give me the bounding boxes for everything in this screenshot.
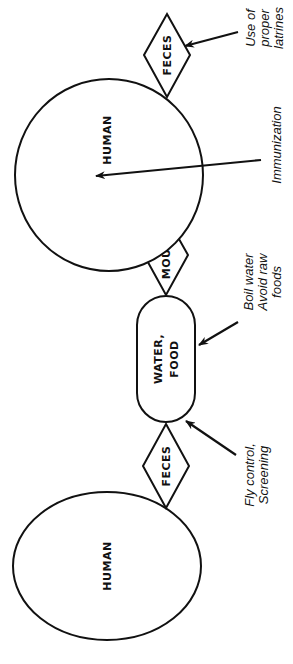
human-source-node: HUMAN <box>13 492 201 640</box>
feces-diamond-lower: FECES <box>143 424 189 508</box>
fly-control-arrow <box>186 421 236 455</box>
human-host-label: HUMAN <box>101 115 114 164</box>
svg-text:foods: foods <box>269 266 284 298</box>
svg-text:Avoid raw: Avoid raw <box>255 252 270 311</box>
immunization-note: Immunization <box>269 106 284 183</box>
latrines-note: Use of proper latrines <box>243 7 286 49</box>
fly-control-note: Fly control, Screening <box>242 443 271 507</box>
human-source-label: HUMAN <box>101 541 114 590</box>
svg-text:Use of: Use of <box>243 8 258 47</box>
boil-water-note: Boil water Avoid raw foods <box>241 252 284 311</box>
water-food-label-line2: FOOD <box>168 340 181 377</box>
svg-text:Boil water: Boil water <box>241 253 256 311</box>
boil-water-arrow <box>199 322 238 345</box>
svg-text:proper: proper <box>257 9 272 48</box>
feces-upper-label: FECES <box>161 34 174 75</box>
water-food-node: WATER, FOOD <box>137 296 195 422</box>
svg-text:Immunization: Immunization <box>269 106 284 183</box>
water-food-label-line1: WATER, <box>152 334 165 384</box>
feces-lower-label: FECES <box>160 445 173 486</box>
svg-text:Screening: Screening <box>256 445 271 504</box>
latrines-arrow <box>185 32 238 46</box>
svg-text:Fly control,: Fly control, <box>242 443 257 507</box>
transmission-diagram: HUMAN FECES WATER, FOOD MOUTH HUMAN FECE… <box>0 0 293 664</box>
svg-text:latrines: latrines <box>271 7 286 49</box>
feces-diamond-upper: FECES <box>144 14 190 97</box>
